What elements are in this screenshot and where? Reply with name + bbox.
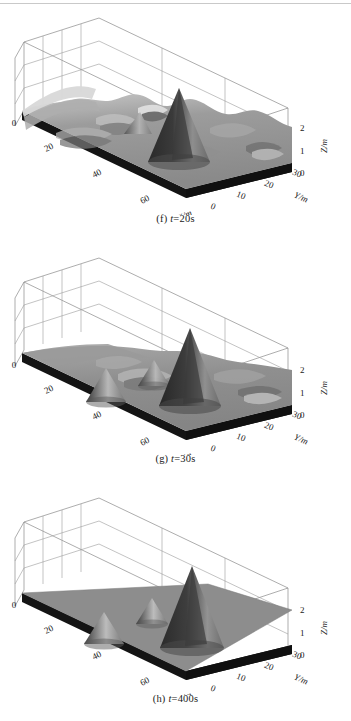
- x-tick-60-h: 60: [138, 675, 151, 688]
- panel-h: 0 20 40 60 X/m 0 10 20 30 Y/m 0 1 2 Z/m …: [0, 480, 351, 720]
- panel-caption-h: (h) t=400s: [0, 693, 351, 704]
- caption-value-g: =30s: [174, 453, 195, 464]
- panel-caption-g: (g) t=30s: [0, 453, 351, 464]
- surface-plot-f: 0 20 40 60 X/m 0 10 20 30 Y/m 0 1 2 Z/m: [0, 0, 351, 215]
- z-tick-2-h: 2: [300, 605, 305, 615]
- z-tick-1-g: 1: [300, 388, 305, 398]
- y-axis-label-h: Y/m: [293, 672, 310, 687]
- x-tick-20-f: 20: [42, 141, 55, 154]
- z-tick-1-h: 1: [300, 628, 305, 638]
- x-tick-20-g: 20: [42, 383, 55, 396]
- y-tick-10-h: 10: [235, 671, 248, 684]
- surface-plot-g: 0 20 40 60 X/m 0 10 20 30 Y/m 0 1 2 Z/m: [0, 240, 351, 455]
- x-tick-60-f: 60: [138, 193, 151, 206]
- caption-index-f: (f): [156, 213, 167, 224]
- z-axis-label-h: Z/m: [319, 621, 329, 636]
- x-tick-20-h: 20: [42, 623, 55, 636]
- y-tick-20-g: 20: [263, 420, 276, 433]
- y-axis-label-f: Y/m: [293, 190, 310, 205]
- caption-value-h: =400s: [172, 693, 199, 704]
- y-tick-20-h: 20: [263, 660, 276, 673]
- z-tick-0-g: 0: [300, 410, 305, 420]
- z-axis-label-g: Z/m: [319, 381, 329, 396]
- caption-index-g: (g): [155, 453, 168, 464]
- x-tick-40-f: 40: [90, 167, 103, 180]
- z-tick-2-g: 2: [300, 365, 305, 375]
- y-tick-20-f: 20: [263, 178, 276, 191]
- z-tick-1-f: 1: [300, 146, 305, 156]
- caption-value-f: =20s: [173, 213, 194, 224]
- surface-plot-h: 0 20 40 60 X/m 0 10 20 30 Y/m 0 1 2 Z/m: [0, 480, 351, 695]
- panel-f: 0 20 40 60 X/m 0 10 20 30 Y/m 0 1 2 Z/m …: [0, 0, 351, 240]
- y-tick-0-f: 0: [209, 201, 217, 212]
- panel-caption-f: (f) t=20s: [0, 213, 351, 224]
- z-tick-2-f: 2: [300, 123, 305, 133]
- caption-index-h: (h): [153, 693, 166, 704]
- x-tick-40-g: 40: [90, 409, 103, 422]
- y-axis-label-g: Y/m: [293, 432, 310, 447]
- panel-g: 0 20 40 60 X/m 0 10 20 30 Y/m 0 1 2 Z/m …: [0, 240, 351, 480]
- x-tick-40-h: 40: [90, 649, 103, 662]
- x-tick-0-f: 0: [12, 118, 17, 128]
- y-tick-10-g: 10: [235, 431, 248, 444]
- z-tick-0-f: 0: [300, 168, 305, 178]
- x-tick-0-h: 0: [12, 600, 17, 610]
- z-axis-label-f: Z/m: [319, 139, 329, 154]
- y-tick-10-f: 10: [235, 189, 248, 202]
- x-tick-0-g: 0: [12, 360, 17, 370]
- z-tick-0-h: 0: [300, 650, 305, 660]
- x-tick-60-g: 60: [138, 435, 151, 448]
